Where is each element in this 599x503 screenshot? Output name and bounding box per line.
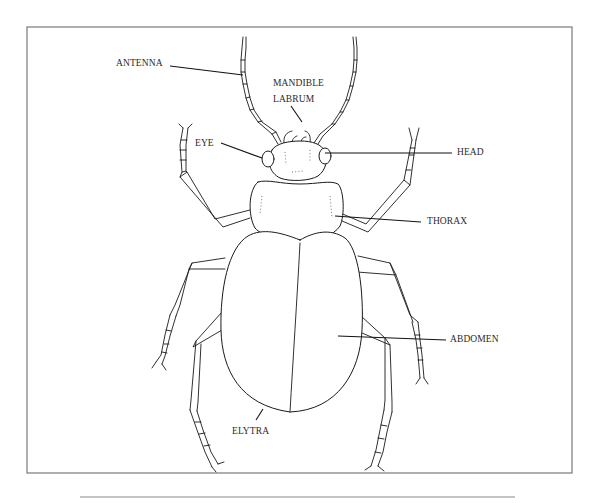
left-antenna [241, 37, 281, 144]
label-antenna: ANTENNA [116, 59, 163, 69]
head [269, 141, 326, 180]
label-head: HEAD [457, 148, 484, 158]
left-middle-leg [152, 258, 225, 370]
left-front-leg [179, 124, 250, 227]
label-labrum: LABRUM [273, 95, 314, 105]
left-hind-leg [190, 312, 224, 472]
label-thorax: THORAX [427, 217, 467, 227]
leader-labrum [291, 106, 302, 122]
thorax [250, 181, 343, 240]
right-middle-leg [357, 256, 428, 384]
leader-elytra [256, 409, 263, 420]
label-elytra: ELYTRA [232, 427, 269, 437]
label-abdomen: ABDOMEN [450, 335, 499, 345]
label-eye: EYE [195, 139, 214, 149]
leader-eye [221, 143, 262, 158]
right-eye [319, 148, 331, 164]
beetle-diagram [0, 0, 599, 503]
leader-antenna [170, 66, 243, 75]
left-eye [262, 151, 274, 167]
right-hind-leg [361, 316, 392, 471]
right-antenna [314, 37, 357, 144]
label-mandible: MANDIBLE [273, 79, 324, 89]
